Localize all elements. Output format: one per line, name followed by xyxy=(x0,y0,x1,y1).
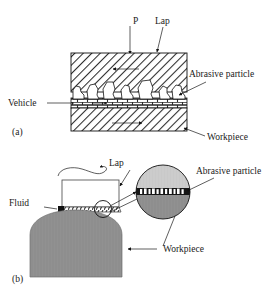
fluid-label: Fluid xyxy=(9,198,29,208)
panel-a: P Lap Abrasive xyxy=(8,16,254,142)
abrasive-particle-label-b: Abrasive particle xyxy=(196,166,261,176)
workpiece-dome-b xyxy=(30,210,122,277)
lap-block-b xyxy=(62,180,119,207)
vehicle-layer-a xyxy=(71,98,187,108)
panel-b-tag: (b) xyxy=(12,274,23,285)
panel-b: Lap Fluid xyxy=(9,158,261,285)
abrasive-particle-label-a: Abrasive particle xyxy=(189,69,254,79)
panel-a-tag: (a) xyxy=(12,127,23,138)
workpiece-label-b: Workpiece xyxy=(163,244,204,254)
oscillation-arrow xyxy=(58,166,107,176)
lap-leader-b xyxy=(120,170,130,186)
lap-label-a: Lap xyxy=(155,16,170,26)
magnified-contact-view xyxy=(136,165,190,221)
lap-leader-a xyxy=(157,27,163,52)
figure-root: P Lap Abrasive xyxy=(0,0,276,291)
vehicle-label: Vehicle xyxy=(8,98,37,108)
fluid-leader-b xyxy=(44,207,57,209)
lap-label-b: Lap xyxy=(109,158,124,168)
workpiece-label-a: Workpiece xyxy=(207,132,248,142)
workpiece-block-a xyxy=(71,108,187,131)
abrasive-leader-b xyxy=(187,178,214,191)
pressure-label: P xyxy=(133,16,138,26)
workpiece-leader-a xyxy=(184,128,205,136)
lapping-diagram: P Lap Abrasive xyxy=(0,0,276,291)
